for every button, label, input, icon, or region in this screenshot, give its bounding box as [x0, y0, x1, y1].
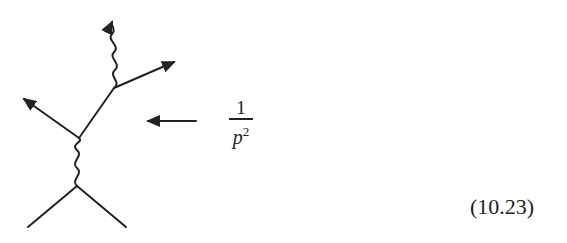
lower-photon-line — [75, 138, 80, 186]
internal-propagator-line — [79, 88, 114, 138]
fraction-denominator: p2 — [226, 120, 256, 149]
denominator-exponent: 2 — [243, 124, 250, 139]
incoming-line-right — [77, 186, 126, 227]
outgoing-left-arrow — [24, 99, 79, 138]
fraction-numerator: 1 — [226, 98, 256, 118]
upper-photon-line — [111, 22, 117, 88]
denominator-base: p — [233, 126, 243, 148]
equation-number: (10.23) — [470, 194, 534, 220]
outgoing-right-arrow — [114, 62, 174, 88]
incoming-line-left — [28, 186, 77, 227]
propagator-fraction: 1 p2 — [226, 98, 256, 149]
